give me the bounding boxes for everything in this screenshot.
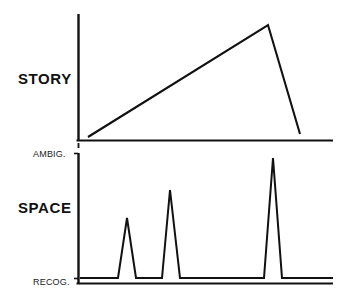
- space-ytick-recog-label: RECOG.: [33, 277, 70, 287]
- story-axis-label: STORY: [18, 70, 72, 87]
- space-axis-label: SPACE: [18, 199, 72, 216]
- space-ytick-ambig-label: AMBIG.: [33, 149, 66, 159]
